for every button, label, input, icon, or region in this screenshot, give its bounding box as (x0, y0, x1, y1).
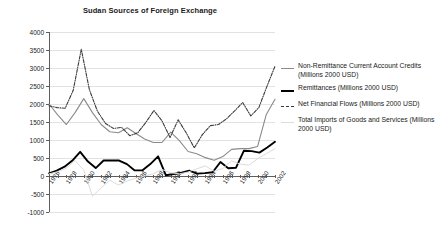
legend-item-label: Remittances (Millions 2000 USD) (298, 84, 398, 93)
chart-legend: Non-Remittance Current Account Credits (… (281, 62, 436, 138)
legend-swatch-icon (281, 118, 294, 127)
legend-item[interactable]: Non-Remittance Current Account Credits (… (281, 62, 436, 79)
x-axis-tick-label: 2002 (273, 170, 287, 185)
series-line (49, 99, 275, 161)
y-axis-tick-label: 1000 (30, 137, 44, 144)
y-axis-tick-label: 2500 (30, 83, 44, 90)
series-line (49, 49, 275, 148)
y-axis-tick-label: -500 (31, 191, 44, 198)
legend-swatch-icon (281, 64, 294, 73)
data-series-layer (49, 32, 275, 212)
legend-item-label: Non-Remittance Current Account Credits (… (298, 62, 436, 79)
gridline (49, 212, 275, 213)
legend-item[interactable]: Total Imports of Goods and Services (Mil… (281, 116, 436, 133)
chart-figure: Sudan Sources of Foreign Exchange 400035… (0, 0, 438, 225)
y-axis-tick-label: 3000 (30, 65, 44, 72)
plot-area: 40003500300025002000150010005000-500-100… (49, 32, 275, 212)
plot-frame: 40003500300025002000150010005000-500-100… (49, 32, 275, 212)
series-line (49, 142, 275, 175)
chart-title: Sudan Sources of Foreign Exchange (0, 6, 300, 15)
y-axis-tick-label: 0 (40, 173, 44, 180)
y-axis-tick-label: 500 (33, 155, 44, 162)
legend-swatch-icon (281, 102, 294, 111)
legend-item-label: Net Financial Flows (Millions 2000 USD) (298, 100, 420, 109)
y-axis-tick (46, 212, 49, 213)
y-axis-tick-label: 3500 (30, 47, 44, 54)
y-axis-tick-label: 2000 (30, 101, 44, 108)
legend-swatch-icon (281, 86, 294, 95)
y-axis-tick-label: 4000 (30, 29, 44, 36)
y-axis-tick-label: 1500 (30, 119, 44, 126)
y-axis-tick-label: -1000 (27, 209, 44, 216)
legend-item[interactable]: Remittances (Millions 2000 USD) (281, 84, 436, 95)
legend-item[interactable]: Net Financial Flows (Millions 2000 USD) (281, 100, 436, 111)
legend-item-label: Total Imports of Goods and Services (Mil… (298, 116, 436, 133)
